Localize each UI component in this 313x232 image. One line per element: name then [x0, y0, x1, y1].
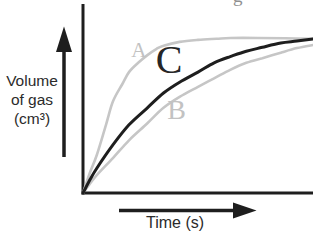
plot-curves — [83, 38, 313, 193]
curve-A — [83, 38, 313, 193]
y-axis-label-line: Volume — [2, 71, 62, 90]
y-axis-label: Volume of gas (cm³) — [2, 71, 62, 128]
curve-label-a: A — [131, 38, 146, 63]
y-axis-label-line: (cm³) — [2, 109, 62, 128]
curve-B — [83, 45, 313, 193]
curve-label-c: C — [156, 37, 183, 84]
x-axis-label: Time (s) — [130, 214, 220, 232]
y-axis-arrowhead-icon — [56, 27, 72, 53]
y-axis-label-line: of gas — [2, 90, 62, 109]
reaction-rate-figure: g Volume of gas (cm³) A B C Time (s) — [0, 0, 313, 232]
curve-label-b: B — [167, 94, 186, 126]
x-axis-arrowhead-icon — [233, 203, 257, 219]
curve-C — [83, 39, 313, 193]
